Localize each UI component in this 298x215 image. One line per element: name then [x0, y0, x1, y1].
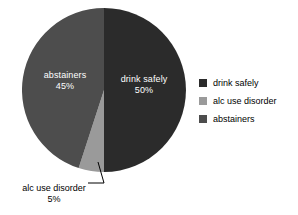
legend-label-abstainers: abstainers: [213, 114, 255, 125]
chart-legend: drink safely alc use disorder abstainers: [199, 76, 295, 130]
slice-callout-alc-use-disorder-name: alc use disorder: [6, 183, 102, 194]
legend-label-alc-use-disorder: alc use disorder: [213, 96, 277, 107]
legend-swatch-alc-use-disorder: [199, 97, 207, 105]
slice-label-abstainers: abstainers 45%: [30, 70, 100, 92]
legend-swatch-drink-safely: [199, 79, 207, 87]
legend-item-abstainers: abstainers: [199, 112, 295, 126]
slice-callout-alc-use-disorder: alc use disorder 5%: [6, 183, 102, 205]
slice-callout-alc-use-disorder-percent: 5%: [6, 194, 102, 205]
pie-chart-figure: drink safely 50% abstainers 45% alc use …: [0, 0, 298, 215]
legend-item-alc-use-disorder: alc use disorder: [199, 94, 295, 108]
legend-item-drink-safely: drink safely: [199, 76, 295, 90]
slice-label-drink-safely: drink safely 50%: [112, 74, 176, 96]
slice-label-drink-safely-name: drink safely: [112, 74, 176, 85]
slice-label-abstainers-percent: 45%: [30, 81, 100, 92]
slice-label-drink-safely-percent: 50%: [112, 85, 176, 96]
slice-label-abstainers-name: abstainers: [30, 70, 100, 81]
legend-label-drink-safely: drink safely: [213, 78, 259, 89]
legend-swatch-abstainers: [199, 115, 207, 123]
